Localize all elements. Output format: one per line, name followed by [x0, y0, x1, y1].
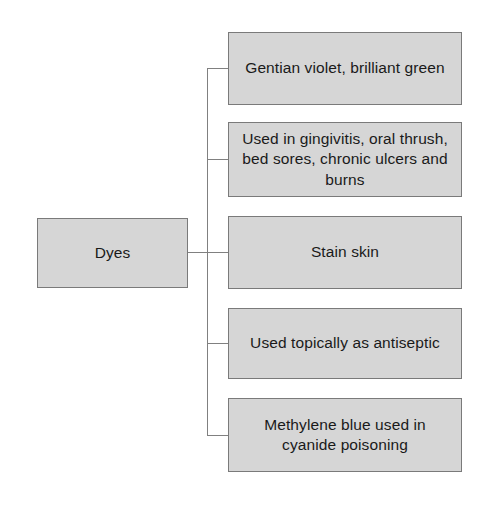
connector-root-stem: [188, 252, 208, 253]
dyes-bracket-diagram: Dyes Gentian violet, brilliant green Use…: [0, 0, 489, 510]
branch-node-1: Gentian violet, brilliant green: [228, 32, 462, 105]
connector-stub-5: [207, 435, 228, 436]
branch-node-2: Used in gingivitis, oral thrush, bed sor…: [228, 122, 462, 197]
connector-stub-3: [207, 252, 228, 253]
branch-node-5: Methylene blue used in cyanide poisoning: [228, 398, 462, 472]
connector-stub-2: [207, 159, 228, 160]
root-node-dyes: Dyes: [37, 218, 188, 288]
branch-node-4: Used topically as antiseptic: [228, 308, 462, 379]
branch-node-2-label: Used in gingivitis, oral thrush, bed sor…: [238, 129, 452, 189]
connector-stub-4: [207, 343, 228, 344]
branch-node-3: Stain skin: [228, 216, 462, 289]
branch-node-3-label: Stain skin: [311, 242, 379, 262]
branch-node-4-label: Used topically as antiseptic: [250, 333, 440, 353]
branch-node-5-label: Methylene blue used in cyanide poisoning: [238, 415, 452, 455]
root-node-label: Dyes: [95, 243, 131, 263]
branch-node-1-label: Gentian violet, brilliant green: [245, 58, 445, 78]
connector-stub-1: [207, 68, 228, 69]
